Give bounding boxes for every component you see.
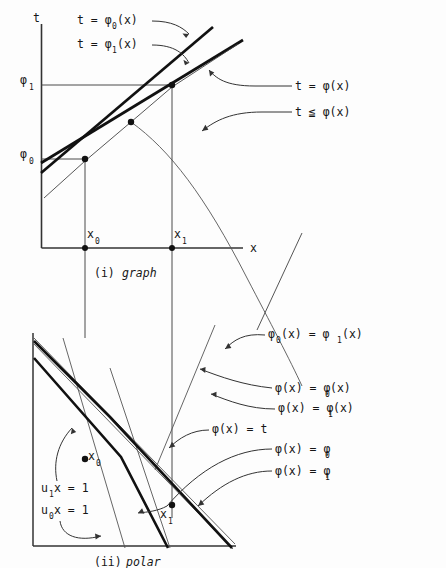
point-intersection	[128, 119, 134, 125]
svg-text:0: 0	[96, 459, 101, 468]
svg-text:φ: φ	[268, 327, 275, 341]
point-x0-on-phi0	[82, 156, 88, 162]
annotation-u1-x-equals-1: u 1 x = 1	[41, 428, 89, 499]
tick-dot-x1	[169, 245, 175, 251]
svg-text:(x): (x)	[333, 401, 354, 415]
leader-line	[198, 471, 272, 506]
svg-text:x: x	[88, 449, 95, 463]
annotation-phi0x-equals-phi1x: φ 0 (x) = φ 1 (x)	[225, 327, 363, 349]
svg-text:(i): (i)	[94, 266, 115, 280]
annotation-u0-x-equals-1: u 0 x = 1	[41, 503, 101, 539]
annotation-phix-equals-phi0x: φ(x) = φ 0 (x)	[200, 367, 351, 399]
svg-text:x: x	[174, 227, 181, 241]
svg-text:φ(x) = φ: φ(x) = φ	[278, 401, 333, 415]
svg-text:(x): (x)	[342, 327, 363, 341]
svg-text:(x): (x)	[330, 381, 351, 395]
annotation-phix-equals-phi1: φ(x) = φ 1	[198, 464, 330, 506]
dual-ray-c	[155, 325, 215, 470]
line-t-equals-phi1	[41, 40, 243, 163]
svg-text:0: 0	[95, 237, 100, 246]
svg-text:1: 1	[29, 83, 34, 92]
leader-line	[225, 335, 265, 349]
point-x1-on-phi1	[169, 82, 175, 88]
svg-text:t ≦ φ(x): t ≦ φ(x)	[295, 105, 350, 119]
svg-text:0: 0	[325, 451, 330, 460]
svg-text:t = φ(x): t = φ(x)	[295, 79, 350, 93]
arrowhead	[95, 534, 101, 540]
leader-line	[202, 112, 292, 131]
svg-text:x = 1: x = 1	[54, 503, 89, 517]
tick-label-x0: x 0	[87, 227, 100, 246]
svg-text:1: 1	[182, 237, 187, 246]
arrowhead	[209, 70, 214, 76]
svg-text:φ: φ	[20, 147, 27, 161]
leader-line	[211, 394, 275, 409]
tick-label-x1: x 1	[174, 227, 187, 246]
tick-dot-x0	[82, 245, 88, 251]
svg-text:u: u	[41, 481, 48, 495]
svg-text:x: x	[87, 227, 94, 241]
arrowhead	[200, 367, 206, 373]
figure-container: t x φ 1 φ 0 x 0 x 1 t	[0, 0, 446, 568]
phi-envelope-line	[44, 44, 238, 198]
annotation-phix-equals-t: φ(x) = t	[169, 422, 267, 448]
svg-text:φ(x) = φ: φ(x) = φ	[275, 442, 330, 456]
svg-text:0: 0	[29, 157, 34, 166]
graph-panel-caption: (i) graph	[94, 266, 157, 280]
leader-line	[169, 430, 209, 448]
tick-label-phi1: φ 1	[20, 73, 34, 92]
leader-line	[56, 428, 72, 481]
svg-text:t = φ: t = φ	[77, 13, 112, 27]
tick-label-phi0: φ 0	[20, 147, 34, 166]
x-axis-label: x	[250, 241, 257, 255]
polar-panel: x 0 x 1 u 1 x = 1 u 0 x = 1	[33, 325, 363, 568]
svg-text:φ: φ	[20, 73, 27, 87]
annotation-t-leq-phi-of-x: t ≦ φ(x)	[202, 105, 350, 131]
annotation-t-equals-phi0-of-x: t = φ 0 (x)	[77, 13, 189, 38]
svg-text:polar: polar	[125, 555, 161, 568]
svg-text:1: 1	[325, 473, 330, 482]
figure-canvas: t x φ 1 φ 0 x 0 x 1 t	[0, 0, 446, 568]
leader-line	[152, 45, 189, 63]
svg-text:φ(x) = φ: φ(x) = φ	[275, 464, 330, 478]
polar-boundary-thick-lower	[34, 358, 168, 548]
svg-text:(x): (x)	[117, 37, 138, 51]
dual-ray-b	[110, 368, 170, 548]
t-axis-label: t	[33, 11, 40, 25]
leader-line	[200, 369, 272, 388]
arrowhead	[183, 34, 190, 39]
svg-text:φ(x) = φ: φ(x) = φ	[275, 381, 330, 395]
svg-text:x = 1: x = 1	[54, 481, 89, 495]
svg-text:t = φ: t = φ	[77, 37, 112, 51]
annotation-t-equals-phi-of-x: t = φ(x)	[209, 70, 350, 93]
svg-text:φ(x) = t: φ(x) = t	[212, 422, 267, 436]
leader-line	[60, 521, 101, 538]
polar-panel-caption: (ii) polar	[94, 555, 161, 568]
polar-label-x0: x 0	[88, 449, 101, 468]
panel-connector-line	[257, 233, 302, 330]
leader-line	[209, 70, 292, 86]
svg-text:u: u	[41, 503, 48, 517]
feasible-region-curve	[131, 122, 302, 386]
arrowhead	[202, 125, 208, 131]
svg-text:(ii): (ii)	[94, 555, 122, 568]
annotation-phix-equals-phi1x: φ(x) = φ 1 (x)	[211, 392, 354, 419]
svg-text:(x) = φ: (x) = φ	[281, 327, 330, 341]
leader-line	[152, 21, 189, 34]
svg-text:graph: graph	[122, 266, 157, 280]
svg-text:(x): (x)	[117, 13, 138, 27]
svg-text:1: 1	[168, 517, 173, 526]
